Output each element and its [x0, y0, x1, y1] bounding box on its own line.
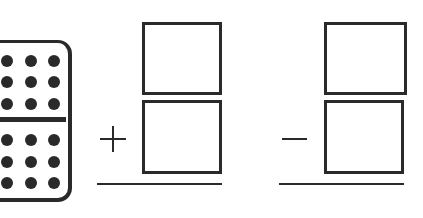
- domino-top-pip: [48, 55, 60, 67]
- domino-bottom-pip: [25, 156, 37, 168]
- subtraction-bottom-box[interactable]: [324, 100, 404, 174]
- domino-top-pip: [48, 98, 60, 110]
- domino-top-pip: [1, 76, 13, 88]
- domino-divider: [0, 117, 66, 122]
- domino-bottom-pip: [1, 156, 13, 168]
- domino-bottom-pip: [1, 134, 13, 146]
- domino-top-pip: [1, 55, 13, 67]
- domino-bottom-pip: [25, 134, 37, 146]
- domino-top-pip: [25, 98, 37, 110]
- addition-top-box[interactable]: [142, 22, 222, 95]
- domino-bottom-pip: [48, 134, 60, 146]
- domino-top-pip: [1, 98, 13, 110]
- subtraction-top-box[interactable]: [324, 22, 407, 95]
- subtraction-answer-line[interactable]: [279, 183, 404, 185]
- domino-top-pip: [48, 76, 60, 88]
- addition-answer-line[interactable]: [97, 183, 222, 185]
- domino-top-pip: [25, 55, 37, 67]
- domino-bottom-pip: [25, 177, 37, 189]
- domino-bottom-pip: [1, 177, 13, 189]
- domino-top-pip: [25, 76, 37, 88]
- domino-bottom-pip: [48, 156, 60, 168]
- addition-bottom-box[interactable]: [142, 100, 222, 174]
- domino-bottom-pip: [48, 177, 60, 189]
